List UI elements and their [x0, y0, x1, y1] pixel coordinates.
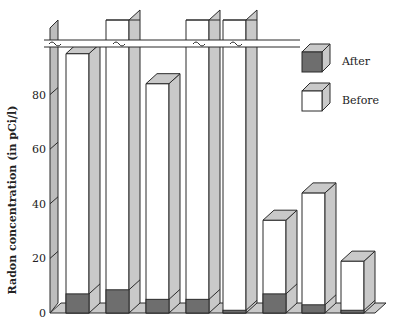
legend-before-swatch — [302, 83, 330, 111]
after-front — [341, 310, 364, 313]
tick-label: 20 — [32, 252, 46, 265]
before-side — [209, 10, 220, 313]
bar-2 — [106, 10, 140, 313]
y-axis-wall — [50, 20, 58, 313]
tick-label: 80 — [32, 89, 46, 102]
legend-after-label: After — [341, 55, 371, 68]
bar-7 — [302, 183, 336, 313]
before-side — [286, 210, 297, 313]
after-front — [223, 310, 246, 313]
before-side — [129, 10, 140, 313]
bar-4 — [186, 10, 220, 313]
bar-3 — [146, 74, 180, 313]
tick-label: 40 — [32, 198, 46, 211]
before-front — [223, 20, 246, 313]
after-front — [146, 299, 169, 313]
break-gap — [44, 40, 302, 47]
bar-1 — [66, 44, 100, 313]
axis-panel — [50, 20, 58, 313]
legend-after-swatch — [302, 44, 330, 72]
tick-label: 60 — [32, 143, 46, 156]
before-front — [146, 84, 169, 313]
after-front — [186, 299, 209, 313]
before-side — [364, 251, 375, 313]
bar-8 — [341, 251, 375, 313]
after-front — [263, 294, 286, 313]
radon-bar-chart: 020406080 After Before Radon concentrati… — [0, 0, 402, 331]
before-side — [89, 44, 100, 313]
y-axis-label: Radon concentration (in pCi/l) — [6, 106, 19, 295]
before-side — [169, 74, 180, 313]
cube-front — [302, 52, 322, 72]
axis-break — [44, 40, 302, 47]
legend-before-label: Before — [342, 94, 379, 107]
after-front — [66, 294, 89, 313]
before-front — [106, 20, 129, 313]
before-side — [325, 183, 336, 313]
bar-6 — [263, 210, 297, 313]
after-front — [106, 290, 129, 313]
bar-5 — [223, 10, 257, 313]
cube-front — [302, 91, 322, 111]
before-front — [341, 261, 364, 313]
before-front — [302, 193, 325, 313]
tick-label: 0 — [39, 307, 46, 320]
before-front — [66, 54, 89, 313]
before-front — [186, 20, 209, 313]
after-front — [302, 305, 325, 313]
before-side — [246, 10, 257, 313]
legend: After Before — [302, 44, 379, 111]
